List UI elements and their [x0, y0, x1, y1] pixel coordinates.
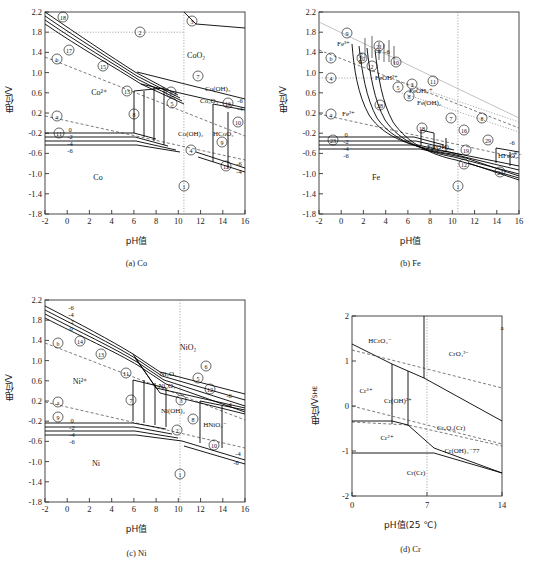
svg-text:-0.6: -0.6 [29, 436, 42, 446]
svg-text:-6: -6 [236, 160, 242, 167]
svg-text:2.2: 2.2 [31, 7, 42, 17]
svg-text:2: 2 [87, 504, 91, 514]
region-label-hfeo2: HFeO₂⁻ [498, 152, 522, 160]
svg-text:2: 2 [361, 216, 365, 226]
region-label-fe2plus: Fe²⁺ [342, 110, 355, 118]
svg-text:17: 17 [66, 48, 72, 54]
svg-text:-4: -4 [226, 401, 232, 408]
y-axis-ticks-co: -1.8 -1.4 -1.0 -0.6 -0.2 0.2 0.6 1.0 1.4… [29, 7, 49, 219]
svg-text:11: 11 [430, 79, 436, 85]
svg-text:14: 14 [219, 504, 228, 514]
svg-text:a: a [330, 112, 333, 118]
svg-text:-4: -4 [67, 140, 73, 147]
svg-text:1.0: 1.0 [31, 356, 42, 366]
svg-text:-2: -2 [343, 138, 348, 145]
svg-text:1.8: 1.8 [305, 27, 316, 37]
region-label-cooh3: Co(OH)₃ [205, 85, 231, 93]
svg-text:2: 2 [87, 216, 91, 226]
y-axis-ticks-cr: -2 -1 0 1 2 [342, 311, 356, 501]
svg-text:-2: -2 [41, 504, 48, 514]
region-label-croh4: Cr(OH)₄⁻77 [444, 447, 480, 455]
svg-text:3: 3 [411, 82, 414, 88]
panel-co: -1.8 -1.4 -1.0 -0.6 -0.2 0.2 0.6 1.0 1.4… [0, 0, 273, 287]
svg-text:2.2: 2.2 [305, 7, 316, 17]
panel-fe: -1.8 -1.4 -1.0 -0.6 -0.2 0.2 0.6 1.0 1.4… [274, 0, 547, 287]
svg-text:-2: -2 [315, 216, 322, 226]
svg-text:-4: -4 [69, 431, 75, 438]
svg-text:0.2: 0.2 [31, 108, 42, 118]
region-label-ni2o3: Ni₂O₃ [160, 370, 177, 378]
svg-text:16: 16 [225, 101, 231, 107]
svg-text:14: 14 [498, 500, 507, 510]
region-label-feoh2plus-b: FeOH₂⁺ [409, 87, 433, 95]
svg-text:-1.8: -1.8 [29, 209, 42, 219]
svg-text:-2: -2 [342, 491, 349, 501]
svg-text:9: 9 [57, 415, 60, 421]
svg-text:13: 13 [98, 352, 104, 358]
svg-text:8: 8 [481, 116, 484, 122]
y-axis-label-cr: 电位/VSHE [308, 386, 321, 425]
svg-text:10: 10 [174, 216, 183, 226]
x-axis-ticks-co: -2 0 2 4 6 8 10 12 14 16 [41, 210, 249, 226]
x-axis-label-ni: pH值 [0, 522, 273, 535]
x-axis-label-cr: pH值(25 ℃) [274, 518, 547, 531]
svg-text:28: 28 [377, 103, 383, 109]
region-label-croh2plus: Cr(OH)²⁺ [384, 397, 412, 405]
svg-text:-6: -6 [509, 139, 515, 146]
svg-text:10: 10 [211, 443, 217, 449]
svg-text:0.6: 0.6 [305, 88, 316, 98]
svg-text:-1.4: -1.4 [303, 189, 317, 199]
svg-text:18: 18 [419, 126, 425, 132]
ni-markers: b 14 13 6 11 5 12 a 7 3 9 8 2 10 1 [53, 336, 219, 479]
svg-text:16: 16 [461, 128, 467, 134]
svg-text:7: 7 [425, 500, 429, 510]
svg-text:7: 7 [130, 398, 133, 404]
corner-label-a: a [500, 324, 504, 332]
panel-cr: -2 -1 0 1 2 0 7 14 [274, 288, 547, 575]
svg-text:-1.0: -1.0 [29, 457, 42, 467]
svg-text:4: 4 [330, 76, 333, 82]
y-axis-label-co: 电位/V [2, 86, 15, 113]
svg-text:12: 12 [207, 387, 213, 393]
svg-text:4: 4 [384, 216, 389, 226]
region-label-nio2: NiO₂ [180, 343, 197, 352]
svg-text:4: 4 [110, 216, 115, 226]
svg-text:10: 10 [448, 216, 457, 226]
y-axis-ticks-ni: -1.8 -1.4 -1.0 -0.6 -0.2 0.2 0.6 1.0 1.4… [29, 295, 49, 507]
x-axis-label-fe: pH值 [274, 234, 547, 247]
svg-text:14: 14 [77, 339, 83, 345]
svg-text:8: 8 [192, 417, 195, 423]
svg-text:0: 0 [344, 131, 347, 138]
svg-text:2: 2 [371, 64, 374, 70]
svg-text:1: 1 [457, 184, 460, 190]
y-axis-ticks-fe: -1.8 -1.4 -1.0 -0.6 -0.2 0.2 0.6 1.0 1.4… [303, 7, 323, 219]
region-label-cro42: CrO₄²⁻ [449, 350, 470, 358]
region-label-cr2o3: Cr₂O₃(Cr) [437, 424, 466, 432]
region-label-nioh2: Ni(OH)₂ [161, 407, 186, 415]
svg-text:6: 6 [132, 504, 136, 514]
svg-text:a: a [56, 114, 59, 120]
x-axis-ticks-fe: -2 0 2 4 6 8 10 12 14 16 [315, 210, 523, 226]
svg-text:12: 12 [196, 504, 205, 514]
svg-text:b: b [330, 56, 333, 62]
svg-text:16: 16 [515, 216, 524, 226]
svg-text:-1.4: -1.4 [29, 477, 43, 487]
panel-caption-cr: (d) Cr [274, 544, 547, 554]
chart-fe-svg: -1.8 -1.4 -1.0 -0.6 -0.2 0.2 0.6 1.0 1.4… [274, 0, 547, 260]
svg-text:6: 6 [170, 90, 173, 96]
svg-text:-4: -4 [237, 105, 243, 112]
svg-text:-0.2: -0.2 [29, 128, 42, 138]
svg-text:1: 1 [179, 472, 182, 478]
svg-text:8: 8 [408, 94, 411, 100]
svg-text:12: 12 [470, 216, 479, 226]
svg-text:12: 12 [461, 162, 467, 168]
svg-text:8: 8 [133, 112, 136, 118]
svg-text:1: 1 [345, 356, 349, 366]
svg-text:0: 0 [339, 216, 343, 226]
svg-text:-6: -6 [237, 97, 243, 104]
svg-text:6: 6 [205, 364, 208, 370]
region-label-hnio2: HNiO₂⁻ [203, 421, 227, 429]
svg-text:b: b [57, 341, 60, 347]
region-label-feoh3: Fe(OH)₃ [417, 99, 442, 107]
svg-text:10: 10 [174, 504, 183, 514]
